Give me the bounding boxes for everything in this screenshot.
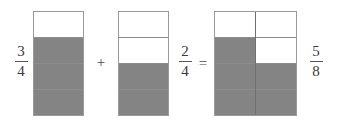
fraction-denominator: 4 xyxy=(8,64,34,79)
fraction-numerator: 5 xyxy=(303,44,329,59)
bar-model-column xyxy=(34,12,83,115)
bar-model-cell xyxy=(119,38,168,64)
fraction-numerator: 3 xyxy=(8,44,34,59)
bar-model-second-term xyxy=(118,11,169,116)
fraction-bar xyxy=(310,61,323,62)
bar-model-cell xyxy=(119,90,168,115)
bar-model-cell xyxy=(215,12,255,38)
bar-model-cell xyxy=(34,38,83,64)
fraction-label-second-term: 2 4 xyxy=(172,44,198,79)
bar-model-cell xyxy=(119,12,168,38)
bar-model-cell xyxy=(34,12,83,38)
fraction-bar xyxy=(15,61,28,62)
bar-model-cell xyxy=(34,90,83,115)
bar-model-cell xyxy=(215,90,255,115)
equals-operator: = xyxy=(196,56,210,71)
fraction-numerator: 2 xyxy=(172,44,198,59)
bar-model-cell xyxy=(34,64,83,90)
fraction-bar xyxy=(179,61,192,62)
fraction-label-result-term: 5 8 xyxy=(303,44,329,79)
bar-model-cell xyxy=(215,64,255,90)
bar-model-cell xyxy=(256,12,296,38)
bar-model-cell xyxy=(256,64,296,90)
fraction-denominator: 4 xyxy=(172,64,198,79)
bar-model-column xyxy=(215,12,255,115)
fraction-label-first-term: 3 4 xyxy=(8,44,34,79)
bar-model-cell xyxy=(256,38,296,64)
bar-model-cell xyxy=(256,90,296,115)
bar-model-first-term xyxy=(33,11,84,116)
bar-model-cell xyxy=(215,38,255,64)
bar-model-column xyxy=(119,12,168,115)
fraction-denominator: 8 xyxy=(303,64,329,79)
bar-model-cell xyxy=(119,64,168,90)
plus-operator: + xyxy=(94,55,108,70)
bar-model-result-term xyxy=(214,11,297,116)
bar-model-column xyxy=(255,12,296,115)
fraction-addition-diagram: 3 4 + 2 4 = xyxy=(0,0,340,126)
